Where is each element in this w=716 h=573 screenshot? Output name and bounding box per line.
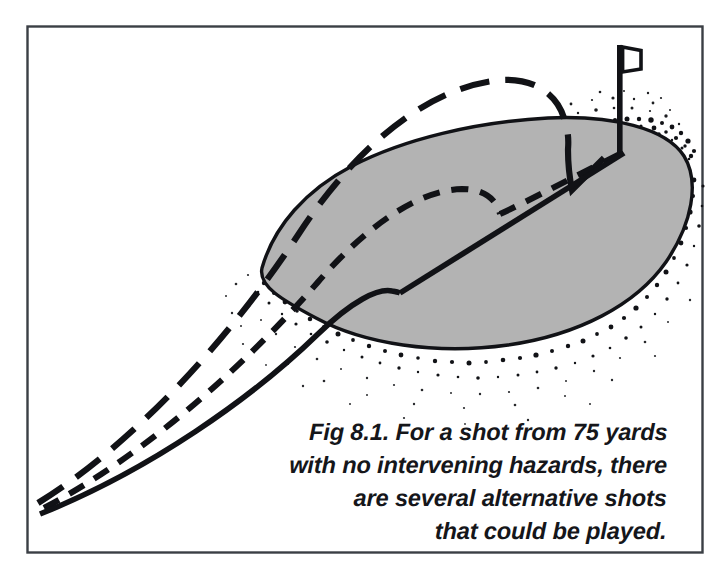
flag-banner	[623, 47, 641, 72]
figure-container: Fig 8.1. For a shot from 75 yards with n…	[0, 0, 716, 573]
golf-shot-diagram: Fig 8.1. For a shot from 75 yards with n…	[0, 0, 716, 573]
caption-line-4: that could be played.	[435, 518, 667, 544]
caption-line-3: are several alternative shots	[353, 485, 667, 511]
caption-line-2: with no intervening hazards, there	[289, 452, 667, 478]
caption-line-1: Fig 8.1. For a shot from 75 yards	[309, 419, 668, 445]
